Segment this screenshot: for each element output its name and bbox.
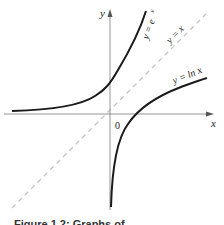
x-axis-arrow-icon — [206, 112, 214, 117]
identity-line — [12, 14, 206, 208]
function-graph: y x 0 y = e x y = x y = ln x — [0, 0, 224, 225]
x-axis-label: x — [210, 117, 216, 129]
figure-caption: Figure 1.2: Graphs of ... — [14, 218, 137, 225]
y-axis-arrow-icon — [108, 9, 113, 17]
y-axis-label: y — [99, 7, 105, 19]
svg-text:x: x — [147, 7, 156, 14]
exp-curve — [12, 11, 146, 111]
log-curve — [111, 78, 207, 207]
origin-label: 0 — [115, 120, 120, 131]
identity-line-label: y = x — [163, 23, 186, 46]
log-curve-label: y = ln x — [170, 64, 204, 86]
